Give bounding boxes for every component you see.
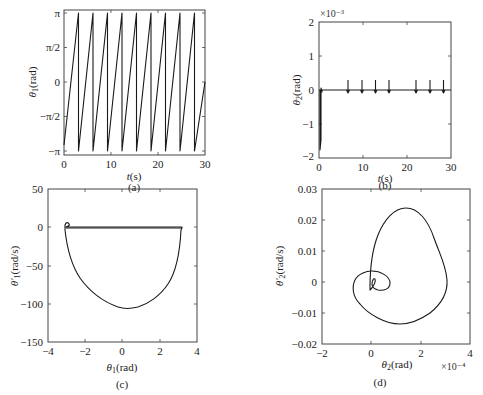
xtick-d-neg2: −2: [316, 347, 328, 359]
subplot-a: π π/2 0 −π/2 −π 0 10 20 30 t(s) θ1(rad) …: [26, 7, 211, 194]
ytick-d-neg0.02: −0.02: [292, 338, 317, 350]
caption-a: (a): [128, 181, 141, 194]
ytick-a-zero: 0: [55, 76, 61, 88]
xtick-a-10: 10: [106, 158, 118, 170]
ytick-b-1: 1: [309, 50, 315, 62]
caption-d: (d): [374, 376, 387, 389]
ytick-a-neg-pi-half: −π/2: [40, 110, 60, 122]
ytick-a-pi-half: π/2: [46, 41, 60, 53]
ytick-b-neg1: −1: [302, 118, 314, 130]
xtick-d-2: 2: [418, 347, 424, 359]
ylabel-b: θ2(rad): [290, 74, 304, 105]
ytick-b-neg2: −2: [302, 150, 314, 162]
xtick-a-30: 30: [200, 158, 212, 170]
caption-b: (b): [379, 179, 392, 192]
ytick-d-0.03: 0.03: [298, 183, 318, 195]
ylabel-d: θ′2(rad/s): [273, 245, 287, 286]
xtick-c-4: 4: [194, 345, 200, 357]
subplot-b: 2 1 0 −1 −2 ×10⁻³ 0 10 20 30 t(s) θ2(rad…: [290, 8, 457, 192]
ytick-b-0: 0: [309, 84, 315, 96]
series-theta1: [64, 13, 205, 151]
xtick-c-neg2: −2: [79, 345, 91, 357]
xtick-d-4: 4: [467, 347, 473, 359]
xtick-b-10: 10: [358, 161, 370, 173]
ytick-a-pi: π: [54, 7, 60, 19]
subplot-c: 50 0 −50 −100 −150 −4 −2 0 2 4 θ1(rad) θ…: [8, 183, 200, 391]
ylabel-a: θ1(rad): [26, 66, 40, 97]
ytick-c-neg100: −100: [20, 298, 43, 310]
xtick-b-20: 20: [402, 161, 414, 173]
xlabel-d: θ2(rad): [382, 358, 413, 372]
series-phase-theta2-inner-loop: [370, 271, 390, 290]
ytick-d-0.02: 0.02: [298, 214, 317, 226]
ytick-b-2: 2: [309, 16, 315, 28]
axes-frame-d: [322, 189, 470, 344]
ytick-c-neg150: −150: [20, 336, 43, 348]
multiplier-b: ×10⁻³: [320, 8, 344, 19]
ylabel-c: θ′1(rad/s): [8, 245, 22, 286]
xtick-a-0: 0: [61, 158, 67, 170]
ytick-d-0.01: 0.01: [298, 245, 317, 257]
xtick-c-2: 2: [157, 345, 163, 357]
xtick-c-neg4: −4: [42, 345, 54, 357]
xtick-c-0: 0: [119, 345, 125, 357]
xtick-a-20: 20: [153, 158, 165, 170]
figure: π π/2 0 −π/2 −π 0 10 20 30 t(s) θ1(rad) …: [0, 0, 483, 395]
axes-frame-c: [48, 189, 197, 342]
ytick-c-neg50: −50: [26, 260, 44, 272]
ytick-a-neg-pi: −π: [48, 145, 60, 157]
ytick-d-neg0.01: −0.01: [292, 307, 317, 319]
ytick-c-0: 0: [38, 221, 44, 233]
subplot-d: 0.03 0.02 0.01 0 −0.01 −0.02 −2 0 2 4 ×1…: [273, 183, 473, 389]
caption-c: (c): [116, 378, 129, 391]
ytick-d-0: 0: [312, 276, 318, 288]
series-theta2-spikes: [347, 80, 446, 93]
multiplier-d: ×10⁻⁴: [441, 361, 466, 372]
xlabel-c: θ1(rad): [107, 361, 138, 375]
xtick-d-0: 0: [368, 347, 374, 359]
xtick-b-0: 0: [316, 161, 322, 173]
xtick-b-30: 30: [446, 161, 458, 173]
series-phase-theta1: [65, 223, 182, 309]
series-phase-theta2-outer: [353, 208, 447, 324]
ytick-c-50: 50: [32, 183, 44, 195]
series-theta2-transient: [320, 88, 322, 150]
